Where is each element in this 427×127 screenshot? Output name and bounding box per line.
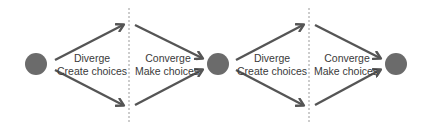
stage-title: Diverge bbox=[254, 52, 290, 64]
end-node bbox=[385, 53, 407, 75]
diverge-converge-diagram: Diverge Create choices Converge Make cho… bbox=[0, 0, 427, 127]
stage-title: Converge bbox=[145, 52, 191, 64]
stage-subtitle: Make choices bbox=[135, 65, 199, 77]
stage-title: Diverge bbox=[74, 52, 110, 64]
stage-subtitle: Create choices bbox=[237, 65, 307, 77]
stage-title: Converge bbox=[324, 52, 370, 64]
stage-subtitle: Create choices bbox=[57, 65, 127, 77]
stage-subtitle: Make choices bbox=[314, 65, 378, 77]
start-node bbox=[25, 53, 47, 75]
middle-node bbox=[207, 53, 229, 75]
